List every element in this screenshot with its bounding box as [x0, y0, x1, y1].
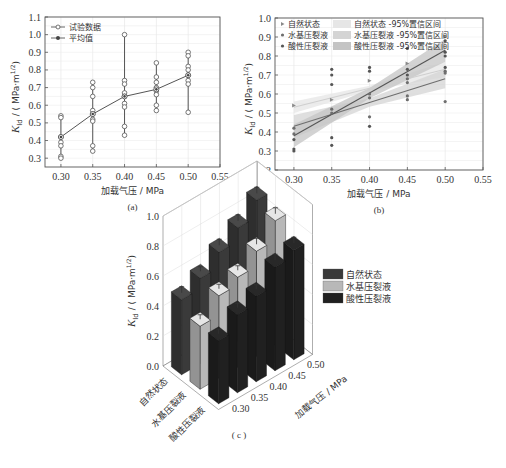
- data-point-1: [406, 98, 409, 101]
- chart-a-mean-scatter: 0.300.350.400.450.500.550.30.40.50.60.70…: [9, 12, 229, 213]
- legend: 自然状态自然状态 -95%置信区间水基压裂液水基压裂液 -95%置信区间酸性压裂…: [281, 19, 449, 51]
- bar-face-front: [294, 244, 304, 360]
- data-point-2: [444, 51, 447, 54]
- data-point-1: [368, 96, 371, 99]
- pressure-tick-label: 0.30: [232, 403, 250, 414]
- data-point: [90, 85, 95, 90]
- legend-label-2: 酸性压裂液: [288, 41, 328, 51]
- data-point-2: [330, 68, 333, 71]
- y-axis-label: KId / ( MPa·m1/2): [242, 63, 257, 136]
- y-tick-label: 0.9: [259, 32, 272, 43]
- data-point-2: [406, 73, 409, 76]
- y-label-unit: / ( MPa·m: [11, 74, 21, 119]
- legend-marker-data: [56, 25, 60, 29]
- x-tick-label: 0.50: [179, 171, 197, 182]
- legend-label-0: 自然状态: [288, 19, 320, 29]
- data-point-1: [406, 81, 409, 84]
- legend-label-1: 水基压裂液: [346, 281, 391, 292]
- data-point: [154, 92, 159, 97]
- data-point-1: [330, 111, 333, 114]
- y-tick-label: 0.6: [259, 89, 272, 100]
- legend-label-1: 水基压裂液: [288, 30, 328, 40]
- data-point: [186, 110, 191, 115]
- data-point-2: [330, 136, 333, 139]
- legend-label-mean: 平均值: [69, 33, 93, 43]
- bar-face-front: [237, 309, 247, 393]
- data-point-1: [368, 92, 371, 95]
- bar-face-front: [219, 335, 229, 404]
- y-tick-label: 0.4: [29, 135, 42, 146]
- data-point-1: [292, 132, 295, 135]
- legend-band-swatch-1: [333, 31, 351, 39]
- mean-point-dot: [187, 74, 190, 77]
- data-point-2: [330, 144, 333, 147]
- legend-swatch-2: [323, 293, 343, 303]
- data-point-2: [292, 138, 295, 141]
- data-point-1: [330, 108, 333, 111]
- legend-band-label-0: 自然状态 -95%置信区间: [354, 19, 441, 29]
- y-tick-label: 0.9: [29, 47, 42, 58]
- x-tick-label: 0.45: [148, 171, 166, 182]
- data-point-1: [406, 94, 409, 97]
- legend-band-swatch-2: [333, 42, 351, 50]
- y-tick-label: 0.5: [259, 108, 272, 119]
- data-point: [122, 133, 127, 138]
- pressure-tick-label: 0.50: [307, 359, 325, 370]
- data-point: [59, 156, 64, 161]
- y-tick-label: 0.7: [29, 82, 42, 93]
- x-tick-label: 0.35: [84, 171, 102, 182]
- data-point-1: [406, 77, 409, 80]
- bar-face-side: [171, 292, 181, 375]
- data-point-2: [368, 66, 371, 69]
- y-tick-label: 0.6: [29, 100, 42, 111]
- y-tick-label: 1.0: [259, 13, 272, 24]
- legend-marker-0: [281, 22, 285, 26]
- legend-marker-mean: [56, 36, 60, 40]
- legend-marker-1: [281, 33, 284, 36]
- bar-face-side: [208, 333, 218, 404]
- legend-label-data: 试验数据: [69, 22, 101, 32]
- x-tick-label: 0.30: [52, 171, 70, 182]
- legend: 自然状态水基压裂液酸性压裂液: [323, 269, 391, 304]
- data-point: [122, 124, 127, 129]
- legend-label-0: 自然状态: [346, 269, 382, 280]
- bar-face-front: [256, 290, 266, 382]
- data-point: [90, 144, 95, 149]
- data-point-2: [406, 68, 409, 71]
- category-label: 自然状态: [136, 375, 169, 408]
- chart-c-3d-bar: 0.00.20.40.60.81.0自然状态水基压裂液酸性压裂液0.300.35…: [125, 161, 391, 443]
- mean-point-dot: [60, 136, 63, 139]
- mean-point-dot: [123, 95, 126, 98]
- data-point: [59, 115, 64, 120]
- data-point: [90, 119, 95, 124]
- bar-face-front: [275, 261, 285, 371]
- pressure-tick-label: 0.45: [288, 370, 306, 381]
- data-point: [186, 68, 191, 73]
- z-tick-label: 0.8: [147, 241, 160, 252]
- x-tick-label: 0.40: [361, 174, 379, 185]
- data-point: [186, 54, 191, 59]
- data-point: [122, 82, 127, 87]
- y-tick-label: 0.8: [259, 51, 272, 62]
- y-tick-label: 0.5: [29, 117, 42, 128]
- y-label-exp: 1/2: [242, 66, 249, 76]
- mean-point-dot: [155, 88, 158, 91]
- z-tick-label: 0.6: [147, 271, 160, 282]
- x-tick-label: 0.35: [323, 174, 341, 185]
- y-tick-label: 0.4: [259, 127, 272, 138]
- data-point: [90, 149, 95, 154]
- data-point: [154, 61, 159, 66]
- z-tick-label: 0.2: [147, 331, 160, 342]
- data-point-2: [444, 54, 447, 57]
- data-point: [154, 103, 159, 108]
- data-point-2: [368, 125, 371, 128]
- data-point-1: [444, 72, 447, 75]
- x-tick-label: 0.40: [116, 171, 134, 182]
- data-point: [154, 108, 159, 113]
- x-tick-label: 0.45: [399, 174, 417, 185]
- z-label-close: ): [127, 255, 137, 259]
- z-label-exp: 1/2: [125, 258, 132, 268]
- data-point-2: [444, 66, 447, 69]
- pressure-tick-label: 0.35: [251, 392, 269, 403]
- legend-label-2: 酸性压裂液: [346, 293, 391, 304]
